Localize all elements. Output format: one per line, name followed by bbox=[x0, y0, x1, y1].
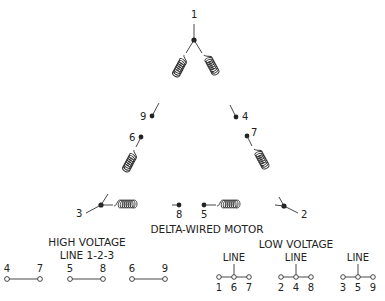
winding-3-8: 8 bbox=[101, 200, 182, 220]
high-voltage-title: HIGH VOLTAGE bbox=[48, 236, 125, 248]
winding-1-9: 9 bbox=[140, 40, 194, 122]
svg-text:8: 8 bbox=[100, 263, 106, 274]
terminal-label-4: 4 bbox=[242, 111, 248, 122]
svg-text:LINE: LINE bbox=[347, 252, 369, 263]
terminal-label-6: 6 bbox=[129, 132, 135, 143]
svg-text:7: 7 bbox=[37, 263, 43, 274]
svg-text:9: 9 bbox=[370, 282, 376, 293]
svg-text:5: 5 bbox=[355, 282, 361, 293]
winding-1-4: 4 bbox=[194, 40, 248, 122]
delta-motor-wiring-diagram: 1 9 4 6 7 bbox=[0, 0, 385, 301]
terminal-label-5: 5 bbox=[201, 209, 207, 220]
winding-7-2: 7 bbox=[245, 127, 284, 206]
svg-text:5: 5 bbox=[67, 263, 73, 274]
high-voltage-subtitle: LINE 1-2-3 bbox=[60, 249, 114, 261]
svg-text:8: 8 bbox=[308, 282, 314, 293]
terminal-label-9: 9 bbox=[140, 111, 146, 122]
svg-text:4: 4 bbox=[293, 282, 299, 293]
winding-6-3: 6 bbox=[101, 132, 143, 205]
svg-text:6: 6 bbox=[129, 263, 135, 274]
high-voltage-section: HIGH VOLTAGE LINE 1-2-3 4 7 5 8 6 9 bbox=[4, 236, 168, 281]
svg-text:1: 1 bbox=[216, 282, 222, 293]
svg-text:3: 3 bbox=[340, 282, 346, 293]
hv-pair-6-9: 6 9 bbox=[129, 263, 168, 281]
svg-text:7: 7 bbox=[246, 282, 252, 293]
low-voltage-title: LOW VOLTAGE bbox=[259, 238, 334, 250]
diagram-title: DELTA-WIRED MOTOR bbox=[150, 223, 263, 235]
terminal-label-2: 2 bbox=[301, 209, 307, 220]
svg-text:LINE: LINE bbox=[223, 252, 245, 263]
hv-pair-4-7: 4 7 bbox=[4, 263, 43, 281]
svg-text:2: 2 bbox=[278, 282, 284, 293]
svg-text:LINE: LINE bbox=[285, 252, 307, 263]
terminal-2: 2 bbox=[281, 203, 307, 220]
lv-group-2-4-8: LINE 2 4 8 bbox=[278, 252, 314, 293]
terminal-label-8: 8 bbox=[176, 209, 182, 220]
lv-group-3-5-9: LINE 3 5 9 bbox=[340, 252, 376, 293]
svg-text:9: 9 bbox=[162, 263, 168, 274]
hv-pair-5-8: 5 8 bbox=[67, 263, 106, 281]
terminal-label-3: 3 bbox=[76, 208, 82, 219]
svg-text:6: 6 bbox=[231, 282, 237, 293]
winding-5-2: 5 bbox=[201, 200, 284, 220]
svg-text:4: 4 bbox=[4, 263, 10, 274]
terminal-1: 1 bbox=[191, 9, 197, 43]
low-voltage-section: LOW VOLTAGE LINE 1 6 7 LINE 2 4 8 LINE bbox=[216, 238, 376, 293]
terminal-label-7: 7 bbox=[251, 127, 257, 138]
lv-group-1-6-7: LINE 1 6 7 bbox=[216, 252, 252, 293]
terminal-label-1: 1 bbox=[191, 9, 197, 20]
terminal-3: 3 bbox=[76, 202, 104, 219]
